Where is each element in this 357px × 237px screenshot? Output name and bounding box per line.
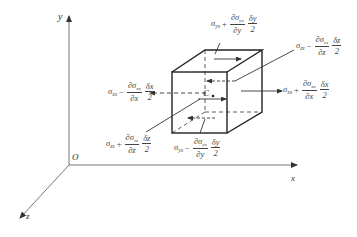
stress-label-front-zx: σzx + ∂σzx∂z δz2 <box>106 133 152 155</box>
origin-label: O <box>72 153 79 162</box>
stress-arrows <box>146 43 294 133</box>
coordinate-axes <box>20 16 297 218</box>
back-zx-leader <box>235 50 294 81</box>
centroid-dot <box>212 95 215 98</box>
centroid-label: C <box>203 89 209 98</box>
stress-label-bottom-yx: σyx − ∂σyx∂y δy2 <box>174 137 221 159</box>
bottom-shear-leader <box>200 119 205 133</box>
stress-label-left-xx: σxx − ∂σxx∂x δx2 <box>108 81 155 103</box>
y-axis-label: y <box>58 12 62 22</box>
cube-visible-edges <box>172 50 262 133</box>
stress-label-top-yx: σyx + ∂σyx∂y δy2 <box>211 13 258 35</box>
front-zx-leader <box>146 99 200 132</box>
z-axis-label: z <box>26 212 30 221</box>
stress-label-right-xx: σxx + ∂σxx∂x δx2 <box>283 79 330 101</box>
top-shear-leader <box>215 43 220 54</box>
x-axis-label: x <box>291 174 295 183</box>
cube-right-face <box>227 50 262 133</box>
stress-label-back-zx: σzx − ∂σzx∂z δz2 <box>296 35 342 57</box>
cube-top-face <box>172 50 262 72</box>
